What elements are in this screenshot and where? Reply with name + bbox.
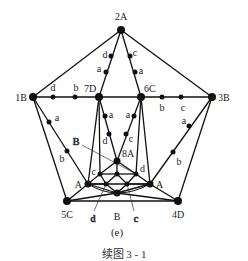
- graph-edge: [99, 30, 121, 97]
- graph-edge: [121, 30, 141, 97]
- graph-node: [147, 181, 154, 188]
- edge-point: [73, 95, 78, 100]
- edge-points: dbbcdacaadacabab: [47, 47, 192, 167]
- edge-point: [51, 95, 56, 100]
- edge-point: [160, 95, 165, 100]
- edge-point-label: a: [139, 65, 144, 76]
- node-label: c: [92, 166, 97, 177]
- callout-label: c: [134, 213, 139, 224]
- graph-node: [125, 182, 130, 187]
- edge-point-label: b: [74, 82, 79, 93]
- edge-point-label: a: [126, 109, 131, 120]
- graph-edge: [117, 193, 178, 201]
- edge-point-label: a: [109, 109, 114, 120]
- node-label: d: [140, 163, 145, 174]
- node-label: A: [156, 179, 164, 190]
- edge-point-label: a: [55, 112, 60, 123]
- graph-node: [114, 158, 121, 165]
- edge-point-label: c: [181, 102, 186, 113]
- node-label: 1B: [15, 92, 27, 103]
- edge-point: [132, 114, 137, 119]
- graph-edge: [99, 97, 117, 161]
- figure-caption: 续图 3 - 1: [0, 245, 248, 261]
- graph-node: [98, 172, 103, 177]
- graph-node: [134, 172, 139, 177]
- callout-label: d: [91, 213, 96, 224]
- node-label: 8A: [122, 148, 135, 159]
- edge-point-label: b: [177, 156, 182, 167]
- edge-point-label: a: [182, 115, 187, 126]
- graph-node: [63, 197, 71, 205]
- edge-point-label: d: [51, 82, 56, 93]
- graph-node: [137, 93, 145, 101]
- graph-edge: [33, 97, 88, 184]
- edge-point: [124, 132, 129, 137]
- edge-point-label: a: [97, 63, 102, 74]
- edge-point: [104, 70, 109, 75]
- graph-edge: [33, 97, 67, 201]
- graph-node: [115, 172, 120, 177]
- graph-node: [117, 26, 125, 34]
- edge-point-label: b: [160, 102, 165, 113]
- graph-edge: [99, 97, 100, 174]
- edge-point-label: d: [103, 135, 108, 146]
- node-label: 5C: [61, 209, 73, 220]
- edge-point: [128, 54, 133, 59]
- edge-point: [65, 149, 70, 154]
- edge-point: [47, 120, 52, 125]
- graph-node: [174, 197, 182, 205]
- edge-point-label: c: [133, 47, 138, 58]
- node-label: 2A: [115, 11, 128, 22]
- callout-label: B: [73, 136, 80, 147]
- graph-node: [208, 93, 216, 101]
- edge-point-label: c: [129, 133, 134, 144]
- node-label: B: [114, 211, 121, 222]
- graph-node: [85, 181, 92, 188]
- edge-point: [179, 95, 184, 100]
- node-label: A: [75, 179, 83, 190]
- graph-node: [104, 182, 109, 187]
- edge-point: [103, 114, 108, 119]
- graph-node: [29, 93, 37, 101]
- edge-point-label: b: [60, 153, 65, 164]
- graph-edge: [121, 30, 212, 97]
- node-label: 4D: [172, 209, 184, 220]
- edge-point: [187, 124, 192, 129]
- node-label: 6C: [144, 83, 156, 94]
- node-label: 3B: [218, 92, 230, 103]
- sub-figure-label: (e): [111, 226, 124, 239]
- node-label: 7D: [84, 83, 96, 94]
- edge-point-label: d: [103, 49, 108, 60]
- graph-node: [114, 190, 121, 197]
- edge-point: [171, 150, 176, 155]
- edge-point: [109, 54, 114, 59]
- edge-point: [133, 70, 138, 75]
- graph-node: [95, 93, 103, 101]
